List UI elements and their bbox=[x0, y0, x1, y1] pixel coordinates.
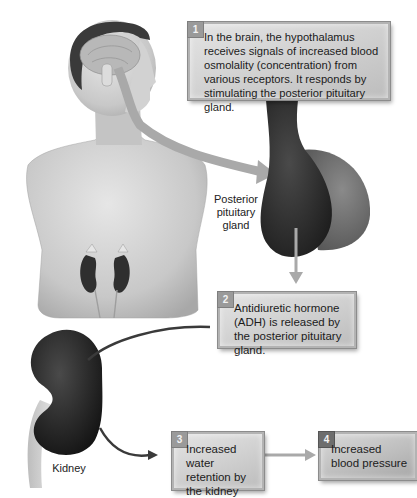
arrow-kidney-to-retention bbox=[100, 428, 158, 460]
step-2-badge: 2 bbox=[217, 291, 234, 308]
arrow-retention-to-pressure bbox=[260, 449, 316, 461]
step-1-badge: 1 bbox=[187, 21, 204, 38]
step-2-box: 2 Antidiuretic hormone (ADH) is released… bbox=[218, 292, 356, 348]
arrow-adh-to-kidney bbox=[88, 327, 210, 360]
step-2-text: Antidiuretic hormone (ADH) is released b… bbox=[234, 301, 348, 357]
step-1-text: In the brain, the hypothalamus receives … bbox=[204, 30, 382, 114]
step-3-text: Increased water retention by the kidney bbox=[186, 442, 256, 498]
step-4-box: 4 Increased blood pressure bbox=[319, 432, 417, 480]
step-1-box: 1 In the brain, the hypothalamus receive… bbox=[188, 22, 390, 100]
pituitary-label: Posterior pituitary gland bbox=[208, 193, 264, 232]
kidney-label: Kidney bbox=[44, 462, 94, 475]
pituitary-gland bbox=[261, 100, 370, 257]
step-4-text: Increased blood pressure bbox=[331, 442, 409, 470]
human-figure bbox=[27, 20, 208, 318]
step-3-box: 3 Increased water retention by the kidne… bbox=[172, 432, 264, 490]
